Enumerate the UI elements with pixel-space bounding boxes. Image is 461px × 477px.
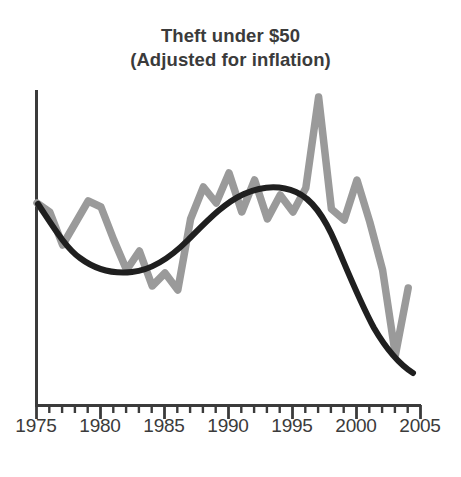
x-tick-label-1980: 1980: [65, 415, 135, 437]
data-series-theft-rate: [37, 97, 408, 355]
trend-curve-smoothed: [38, 187, 413, 373]
x-tick-label-1985: 1985: [129, 415, 199, 437]
chart-plot-area: [0, 0, 461, 477]
axes-group: [35, 90, 421, 406]
x-tick-label-1995: 1995: [257, 415, 327, 437]
x-tick-label-1975: 1975: [1, 415, 71, 437]
x-tick-label-2000: 2000: [321, 415, 391, 437]
x-tick-label-2005: 2005: [385, 415, 455, 437]
x-tick-label-1990: 1990: [193, 415, 263, 437]
chart-figure: Theft under $50 (Adjusted for inflation): [0, 0, 461, 477]
